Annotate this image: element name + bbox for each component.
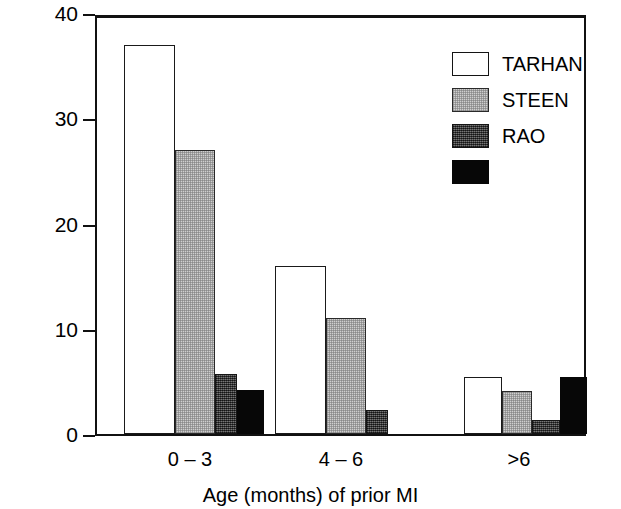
legend-item bbox=[452, 154, 583, 190]
y-tick-label: 30 bbox=[55, 106, 78, 132]
bar bbox=[560, 377, 587, 434]
y-tick-label: 40 bbox=[55, 1, 78, 27]
bar bbox=[464, 377, 502, 434]
y-tick-mark bbox=[83, 14, 95, 16]
legend-item: TARHAN bbox=[452, 46, 583, 82]
legend: TARHANSTEENRAO bbox=[452, 46, 583, 190]
bar bbox=[237, 390, 264, 434]
bar bbox=[275, 266, 326, 434]
bar bbox=[175, 150, 215, 434]
x-axis-tick-label: 4 – 6 bbox=[319, 448, 363, 471]
legend-item-label: RAO bbox=[502, 125, 545, 148]
y-tick-mark bbox=[83, 225, 95, 227]
x-axis-tick-label: >6 bbox=[508, 448, 531, 471]
bar bbox=[502, 391, 532, 434]
legend-item: RAO bbox=[452, 118, 583, 154]
y-tick-label: 10 bbox=[55, 317, 78, 343]
y-tick-label: 20 bbox=[55, 212, 78, 238]
y-tick-mark bbox=[83, 119, 95, 121]
bar bbox=[326, 318, 366, 434]
y-tick-mark bbox=[83, 330, 95, 332]
bar bbox=[215, 374, 237, 434]
y-tick-mark bbox=[83, 435, 95, 437]
x-axis-title: Age (months) of prior MI bbox=[0, 484, 621, 507]
bar bbox=[124, 45, 175, 434]
legend-swatch-icon bbox=[452, 160, 489, 184]
bar-chart-figure: Reinfarction rate (%) 010203040 0 – 34 –… bbox=[0, 0, 621, 509]
legend-swatch-icon bbox=[452, 124, 489, 148]
y-tick-label: 0 bbox=[66, 422, 78, 448]
legend-item-label: TARHAN bbox=[502, 53, 583, 76]
legend-swatch-icon bbox=[452, 88, 489, 112]
legend-item: STEEN bbox=[452, 82, 583, 118]
bar bbox=[366, 410, 388, 434]
x-axis-tick-label: 0 – 3 bbox=[168, 448, 212, 471]
legend-swatch-icon bbox=[452, 52, 489, 76]
bar bbox=[532, 420, 560, 434]
legend-item-label: STEEN bbox=[502, 89, 569, 112]
